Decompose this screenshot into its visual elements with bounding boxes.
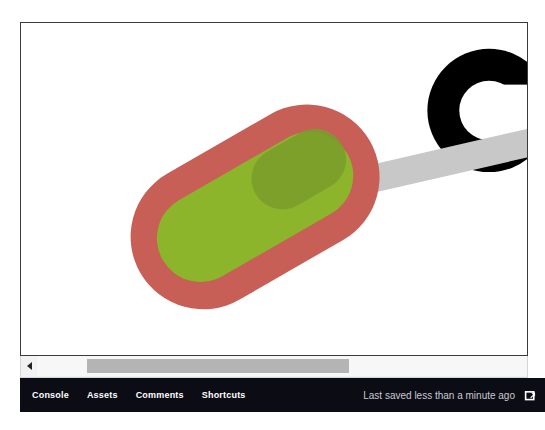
triangle-left-icon — [27, 362, 32, 370]
canvas-vector-layer — [21, 23, 527, 355]
status-bar: Console Assets Comments Shortcuts Last s… — [20, 378, 545, 412]
design-canvas[interactable] — [20, 22, 528, 356]
external-link-icon[interactable] — [524, 389, 537, 402]
status-menu-shortcuts[interactable]: Shortcuts — [202, 390, 246, 400]
saved-status-text: Last saved less than a minute ago — [363, 390, 515, 401]
scrollbar-thumb[interactable] — [87, 359, 349, 373]
external-link-glyph — [524, 389, 537, 402]
horizontal-scrollbar[interactable] — [20, 356, 528, 378]
canvas-surface[interactable] — [21, 23, 527, 355]
scroll-left-button[interactable] — [21, 356, 37, 376]
app-root: Console Assets Comments Shortcuts Last s… — [0, 0, 545, 430]
scrollbar-track[interactable] — [37, 356, 527, 376]
status-bar-menu: Console Assets Comments Shortcuts — [32, 390, 246, 400]
status-menu-console[interactable]: Console — [32, 390, 69, 400]
status-menu-comments[interactable]: Comments — [136, 390, 184, 400]
status-bar-right: Last saved less than a minute ago — [363, 389, 537, 402]
status-menu-assets[interactable]: Assets — [87, 390, 118, 400]
